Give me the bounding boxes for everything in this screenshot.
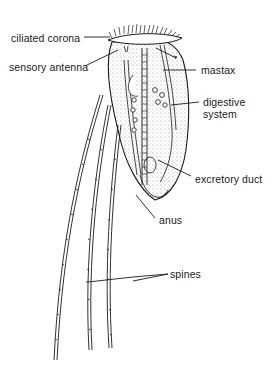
label-digestive: digestive — [203, 96, 245, 108]
body-illustration — [108, 40, 189, 200]
label-system: system — [203, 108, 237, 120]
label-excretory-duct: excretory duct — [195, 173, 262, 185]
leader-spines — [86, 274, 168, 282]
label-spines: spines — [170, 268, 201, 280]
label-mastax: mastax — [201, 64, 235, 76]
spines-illustration — [54, 95, 121, 360]
label-anus: anus — [159, 214, 182, 226]
rotifer-illustration — [0, 0, 275, 384]
rotifer-diagram: ciliated corona sensory antenna mastax d… — [0, 0, 275, 384]
label-ciliated-corona: ciliated corona — [11, 32, 80, 44]
label-sensory-antenna: sensory antenna — [9, 61, 88, 73]
